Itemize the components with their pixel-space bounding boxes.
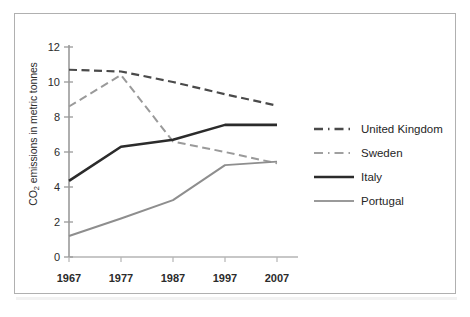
series-line-italy bbox=[69, 125, 277, 181]
chart-legend: United Kingdom Sweden Italy Portugal bbox=[314, 117, 460, 213]
legend-item-united-kingdom[interactable]: United Kingdom bbox=[314, 117, 460, 141]
legend-swatch-sweden bbox=[314, 147, 354, 159]
x-axis-ticks bbox=[69, 257, 277, 262]
legend-label-sweden: Sweden bbox=[361, 147, 403, 159]
legend-item-sweden[interactable]: Sweden bbox=[314, 141, 460, 165]
legend-item-portugal[interactable]: Portugal bbox=[314, 189, 460, 213]
series-line-portugal bbox=[69, 162, 277, 236]
legend-item-italy[interactable]: Italy bbox=[314, 165, 460, 189]
legend-swatch-italy bbox=[314, 171, 354, 183]
legend-swatch-united-kingdom bbox=[314, 123, 354, 135]
data-series-group bbox=[69, 70, 277, 236]
series-line-united-kingdom bbox=[69, 70, 277, 106]
chart-figure: CO2 emissions in metric tonnes 12 10 8 6… bbox=[0, 0, 470, 317]
legend-label-portugal: Portugal bbox=[361, 195, 404, 207]
legend-label-united-kingdom: United Kingdom bbox=[361, 123, 443, 135]
legend-label-italy: Italy bbox=[361, 171, 382, 183]
series-line-sweden bbox=[69, 75, 277, 163]
legend-swatch-portugal bbox=[314, 195, 354, 207]
